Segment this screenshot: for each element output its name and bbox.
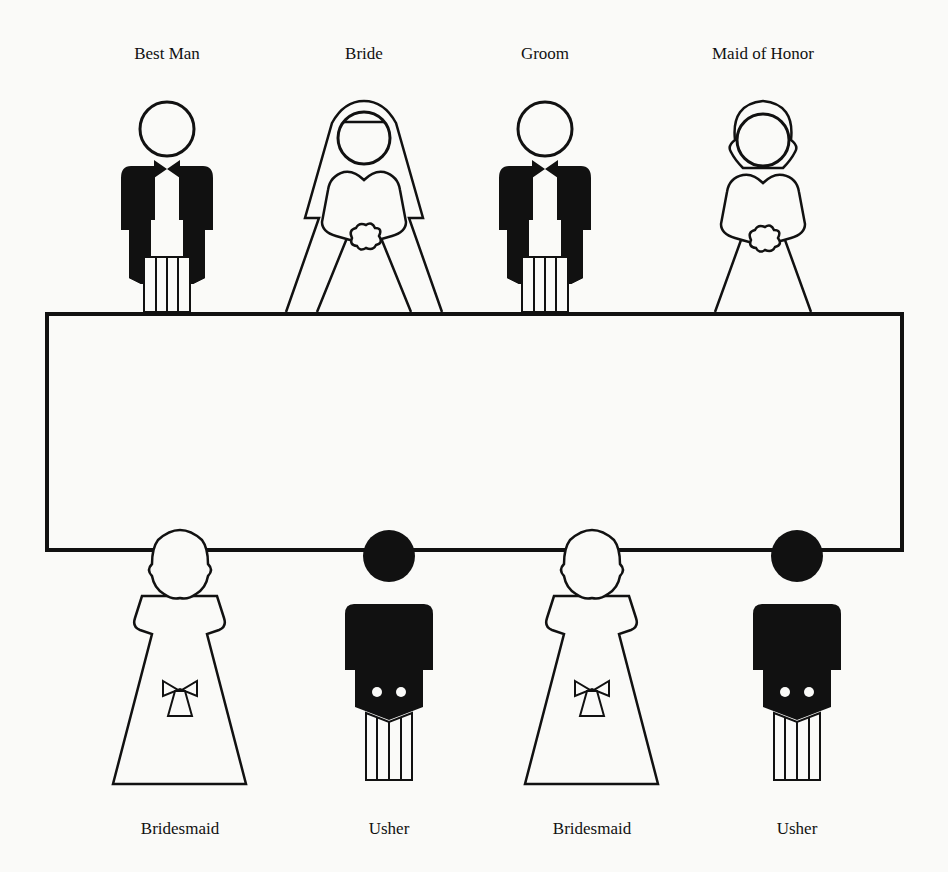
usher-figure-1 (345, 530, 433, 780)
head-table (47, 314, 902, 550)
bridesmaid-figure-1 (113, 530, 246, 784)
seating-diagram (0, 0, 948, 872)
best-man-figure (121, 102, 213, 312)
bride-figure (286, 101, 442, 312)
bridesmaid-figure-2 (525, 530, 658, 784)
maid-of-honor-figure (715, 101, 811, 312)
usher-figure-2 (753, 530, 841, 780)
groom-figure (499, 102, 591, 312)
